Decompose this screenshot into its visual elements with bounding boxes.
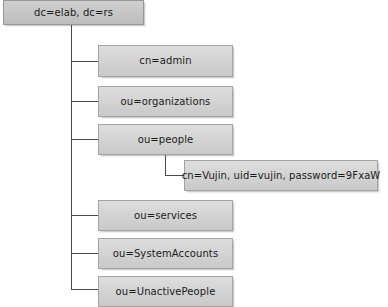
node-cn-vujin[interactable]: cn=Vujin, uid=vujin, password=9FxaW: [184, 160, 378, 191]
branch-line-organizations: [71, 101, 99, 102]
node-ou-systemaccounts-label: ou=SystemAccounts: [109, 249, 222, 259]
branch-line-unactivepeople: [71, 289, 99, 290]
node-ou-people[interactable]: ou=people: [98, 124, 233, 155]
branch-line-systemaccounts: [71, 253, 99, 254]
node-ou-systemaccounts[interactable]: ou=SystemAccounts: [98, 238, 233, 269]
branch-line-admin: [71, 61, 99, 62]
trunk-line: [71, 25, 72, 289]
node-ou-unactivepeople-label: ou=UnactivePeople: [112, 287, 220, 297]
branch-line-services: [71, 215, 99, 216]
subtrunk-line-people: [165, 155, 166, 175]
node-ou-services[interactable]: ou=services: [98, 200, 233, 231]
node-cn-admin[interactable]: cn=admin: [98, 45, 233, 77]
node-ou-services-label: ou=services: [130, 211, 201, 221]
node-ou-organizations[interactable]: ou=organizations: [98, 86, 233, 117]
node-ou-organizations-label: ou=organizations: [117, 97, 215, 107]
node-ou-people-label: ou=people: [134, 135, 198, 145]
node-cn-admin-label: cn=admin: [135, 56, 195, 66]
node-root-label: dc=elab, dc=rs: [30, 8, 117, 18]
node-cn-vujin-label: cn=Vujin, uid=vujin, password=9FxaW: [178, 171, 385, 181]
branch-line-people: [71, 139, 99, 140]
node-root[interactable]: dc=elab, dc=rs: [3, 0, 144, 25]
node-ou-unactivepeople[interactable]: ou=UnactivePeople: [98, 276, 233, 307]
